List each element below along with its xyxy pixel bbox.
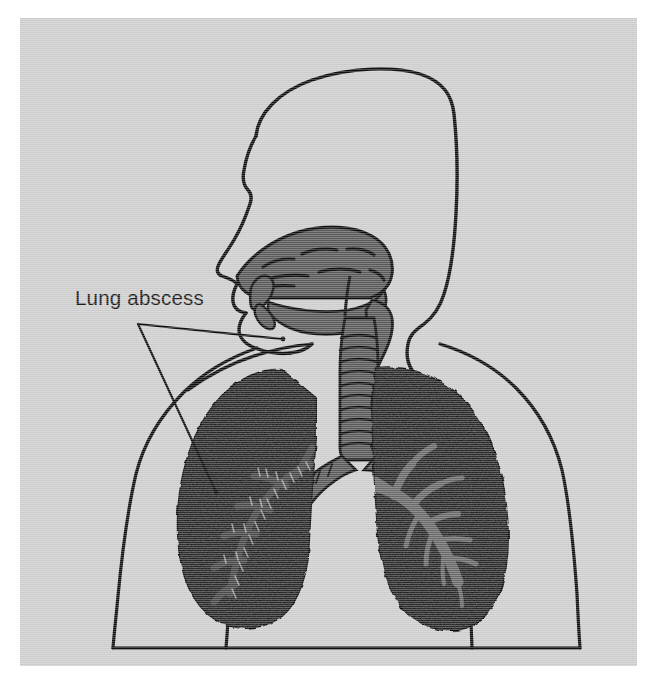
left-lung [170, 363, 330, 638]
leader-endpoint-lower [214, 490, 219, 495]
label-lung-abscess: Lung abscess [75, 286, 204, 309]
figure-root: Lung abscess [0, 0, 655, 685]
illustration-panel: Lung abscess [20, 18, 637, 666]
leader-line-lower [138, 324, 216, 492]
anatomy-illustration: Lung abscess [20, 18, 637, 666]
leader-endpoint-upper [281, 337, 286, 342]
right-lung [365, 360, 520, 640]
leader-line-upper [138, 324, 282, 339]
